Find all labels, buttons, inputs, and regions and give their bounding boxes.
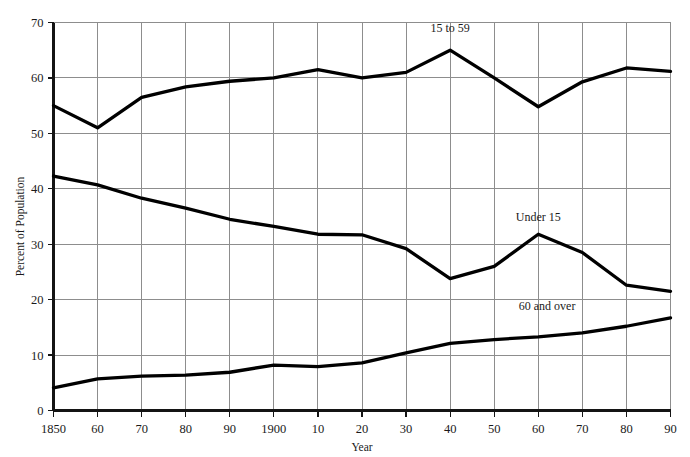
x-tick-label: 80 [620, 422, 633, 436]
x-axis-tick-labels: 1850607080901900102030405060708090 [41, 422, 677, 436]
x-tick-label: 30 [400, 422, 413, 436]
y-tick-label: 40 [31, 182, 44, 196]
x-tick-label: 1850 [41, 422, 66, 436]
series-label-under-15: Under 15 [516, 210, 561, 224]
x-tick-label: 1900 [261, 422, 286, 436]
x-tick-label: 90 [224, 422, 237, 436]
y-axis-tick-labels: 010203040506070 [31, 16, 44, 418]
x-tick-label: 80 [179, 422, 192, 436]
series-label-60-and-over: 60 and over [519, 299, 576, 313]
x-tick-label: 60 [91, 422, 104, 436]
x-tick-label: 90 [664, 422, 677, 436]
y-tick-label: 0 [37, 404, 43, 418]
y-tick-label: 50 [31, 127, 44, 141]
series-label-15-to-59: 15 to 59 [430, 21, 469, 35]
y-tick-label: 60 [31, 71, 44, 85]
x-tick-label: 20 [356, 422, 369, 436]
x-tick-label: 70 [576, 422, 589, 436]
chart-container: 010203040506070 185060708090190010203040… [0, 0, 690, 457]
population-percent-line-chart: 010203040506070 185060708090190010203040… [0, 0, 690, 457]
y-tick-label: 70 [31, 16, 44, 30]
x-tick-label: 70 [135, 422, 148, 436]
y-tick-label: 10 [31, 349, 44, 363]
x-tick-label: 50 [488, 422, 501, 436]
x-axis-title: Year [351, 441, 372, 453]
y-tick-label: 30 [31, 238, 44, 252]
series-inline-labels: 15 to 59Under 1560 and over [430, 21, 575, 312]
x-tick-label: 40 [444, 422, 457, 436]
x-tick-label: 10 [312, 422, 325, 436]
y-axis-title: Percent of Population [14, 176, 27, 276]
axis-tickmarks [48, 23, 671, 417]
y-tick-label: 20 [31, 293, 44, 307]
x-tick-label: 60 [532, 422, 545, 436]
